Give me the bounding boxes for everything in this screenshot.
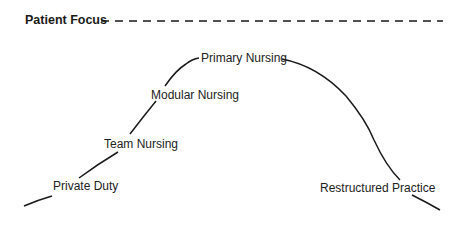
stage-label-restructured-practice: Restructured Practice — [320, 181, 435, 195]
diagram-title: Patient Focus — [25, 13, 107, 27]
curve-segment-private-to-team — [79, 152, 118, 178]
curve-segment-team-to-modular — [130, 101, 156, 134]
curve-segment-end — [412, 195, 440, 210]
curve-segment-start — [24, 196, 52, 206]
patient-focus-diagram: Patient Focus Private Duty Team Nursing … — [0, 0, 466, 234]
curve-segment-modular-to-primary — [165, 58, 199, 86]
stage-label-team-nursing: Team Nursing — [104, 137, 178, 151]
stage-label-modular-nursing: Modular Nursing — [151, 88, 239, 102]
stage-label-private-duty: Private Duty — [53, 179, 118, 193]
stage-label-primary-nursing: Primary Nursing — [201, 51, 287, 65]
curve-segment-primary-to-restructured — [282, 59, 400, 180]
curve-layer — [0, 0, 466, 234]
